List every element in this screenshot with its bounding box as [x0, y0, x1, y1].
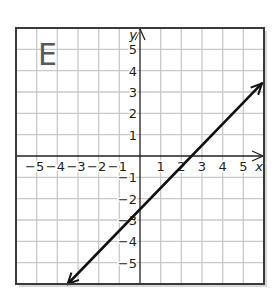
x-tick-label: 1 — [157, 159, 165, 174]
y-tick-label: −2 — [118, 192, 137, 207]
x-tick-label: 4 — [219, 159, 227, 174]
y-tick-label: 5 — [129, 42, 137, 57]
y-tick-label: −1 — [118, 170, 137, 185]
x-tick-label: −3 — [66, 159, 85, 174]
y-tick-label: −5 — [118, 256, 137, 271]
x-tick-label: −2 — [87, 159, 106, 174]
x-tick-label: 5 — [239, 159, 247, 174]
y-tick-label: −4 — [118, 234, 137, 249]
panel-label: E — [38, 40, 57, 70]
x-tick-label: −5 — [25, 159, 44, 174]
x-tick-label: −4 — [46, 159, 65, 174]
y-tick-label: 2 — [129, 106, 137, 121]
x-axis-label: x — [254, 159, 263, 174]
y-axis-label: y — [128, 27, 137, 42]
y-tick-label: 1 — [129, 128, 137, 143]
y-tick-label: 3 — [129, 85, 137, 100]
y-tick-label: 4 — [129, 64, 137, 79]
x-tick-label: 3 — [198, 159, 206, 174]
